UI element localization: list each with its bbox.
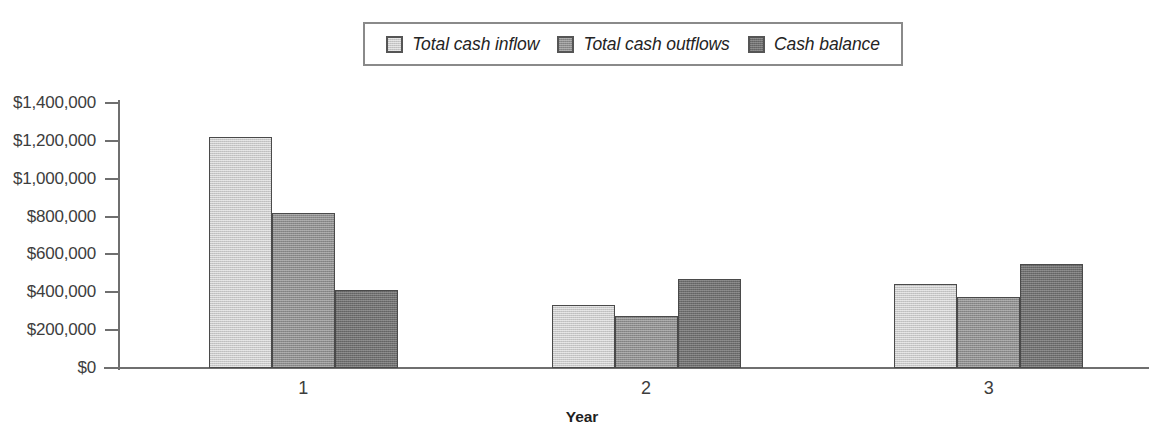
- y-axis-tick-mark: [105, 291, 118, 293]
- bar-cash-balance-year-1: [335, 290, 398, 368]
- y-axis-tick-mark: [105, 329, 118, 331]
- y-axis-tick-label: $400,000: [27, 282, 96, 302]
- y-axis-tick-label: $1,200,000: [13, 131, 96, 151]
- y-axis-tick-label: $1,000,000: [13, 169, 96, 189]
- y-axis-tick-mark: [105, 140, 118, 142]
- x-axis-tick-label-1: 1: [298, 378, 308, 399]
- bar-total-cash-outflows-year-1: [272, 213, 335, 368]
- x-axis-title: Year: [0, 408, 1164, 426]
- legend-label-total-cash-inflow: Total cash inflow: [412, 34, 539, 55]
- y-axis-tick-label: $0: [77, 358, 96, 378]
- bar-total-cash-outflows-year-2: [615, 316, 678, 368]
- y-axis-tick-mark: [105, 216, 118, 218]
- chart-legend: Total cash inflow Total cash outflows Ca…: [363, 22, 903, 66]
- legend-swatch-icon-total-cash-inflow: [386, 36, 403, 53]
- y-axis-tick-mark: [105, 102, 118, 104]
- bar-total-cash-outflows-year-3: [957, 297, 1020, 368]
- legend-item-total-cash-inflow: Total cash inflow: [386, 34, 539, 55]
- bar-total-cash-inflow-year-2: [552, 305, 615, 368]
- legend-label-cash-balance: Cash balance: [774, 34, 880, 55]
- x-axis-tick-label-3: 3: [984, 378, 994, 399]
- legend-swatch-icon-total-cash-outflows: [557, 36, 574, 53]
- y-axis-tick-label: $800,000: [27, 207, 96, 227]
- legend-swatch-icon-cash-balance: [748, 36, 765, 53]
- y-axis-tick-mark: [105, 178, 118, 180]
- bar-total-cash-inflow-year-1: [209, 137, 272, 368]
- x-axis-tick-label-2: 2: [641, 378, 651, 399]
- y-axis-tick-label: $200,000: [27, 320, 96, 340]
- y-axis-tick-mark: [105, 367, 118, 369]
- bar-total-cash-inflow-year-3: [894, 284, 957, 368]
- y-axis-tick-label: $600,000: [27, 244, 96, 264]
- bar-cash-balance-year-2: [678, 279, 741, 368]
- legend-item-total-cash-outflows: Total cash outflows: [557, 34, 729, 55]
- legend-item-cash-balance: Cash balance: [748, 34, 880, 55]
- legend-label-total-cash-outflows: Total cash outflows: [583, 34, 729, 55]
- y-axis-tick-mark: [105, 253, 118, 255]
- y-axis-tick-label: $1,400,000: [13, 93, 96, 113]
- bar-cash-balance-year-3: [1020, 264, 1083, 368]
- plot-area: [118, 103, 1146, 368]
